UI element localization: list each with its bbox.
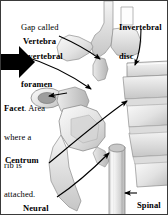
label-neural-line1: Neural [23,204,49,214]
label-spinal-cord: Spinal cord* [137,182,161,215]
label-centrum: Centrum [5,156,39,166]
label-facet-line1-rest: . Area [24,103,45,113]
label-disc-line1: Invertebral [119,23,162,33]
label-intervertebral-disc: Invertebral disc [119,4,162,80]
label-spinal-line1: Spinal [137,201,161,211]
vertebra-diagram-figure: Gap called invertebral foramen Invertebr… [0,0,168,215]
label-vertebra: Vertebra [23,37,56,47]
label-foramen-line1: Gap called [21,23,63,33]
vertebral-bodies-right [123,75,168,187]
label-neural-canal: Neural canal [23,185,49,215]
spinal-cord-column [109,144,125,215]
label-disc-line2: disc [119,52,162,62]
label-foramen-line2: invertebral [21,52,63,62]
label-facet-term: Facet [4,103,24,113]
label-facet-line2: where a [4,133,45,143]
